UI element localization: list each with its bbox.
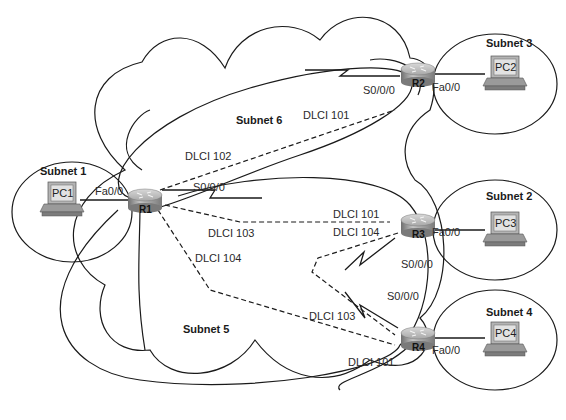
router-r2-label: R2 [412, 78, 425, 89]
r3-serial-link [345, 238, 395, 270]
r4-fa-label: Fa0/0 [432, 344, 460, 356]
dlci-r1-r4-label: DLCI 104 [195, 252, 241, 264]
dlci-r4-r1-label: DLCI 101 [348, 356, 394, 368]
dlci-r1-r2-label: DLCI 102 [185, 150, 231, 162]
r2-serial-link [305, 70, 400, 76]
pc-4-label: PC4 [495, 327, 516, 339]
dlci-r2-r1-label: DLCI 101 [303, 109, 349, 121]
subnet-3-label: Subnet 3 [486, 37, 532, 49]
pc-3-label: PC3 [495, 217, 516, 229]
r1-fa-label: Fa0/0 [95, 185, 123, 197]
r3-serial-label: S0/0/0 [401, 258, 433, 270]
subnet-5-label: Subnet 5 [183, 323, 229, 335]
network-diagram: R1 R2 R3 R4 PC1 PC2 PC3 PC4 Subnet 1 Sub… [0, 0, 566, 420]
dlci-r1-r3-label: DLCI 103 [208, 227, 254, 239]
dlci-r3-r1-label: DLCI 101 [333, 208, 379, 220]
r2-fa-label: Fa0/0 [432, 81, 460, 93]
r3-fa-label: Fa0/0 [432, 226, 460, 238]
router-r3-label: R3 [412, 229, 425, 240]
pc-2-label: PC2 [495, 61, 516, 73]
dlci-r3-r4-label: DLCI 104 [333, 226, 379, 238]
subnet-4-label: Subnet 4 [486, 306, 533, 318]
r4-serial-label: S0/0/0 [387, 290, 419, 302]
subnet-6-label: Subnet 6 [236, 114, 282, 126]
r2-serial-label: S0/0/0 [363, 84, 395, 96]
router-r1-label: R1 [139, 204, 152, 215]
subnet-2-label: Subnet 2 [486, 190, 532, 202]
router-r4-label: R4 [412, 342, 425, 353]
dlci-r4-r3-label: DLCI 103 [309, 310, 355, 322]
subnet-1-label: Subnet 1 [40, 165, 86, 177]
pc-1-label: PC1 [52, 187, 73, 199]
r1-serial-label: S0/0/0 [193, 181, 225, 193]
